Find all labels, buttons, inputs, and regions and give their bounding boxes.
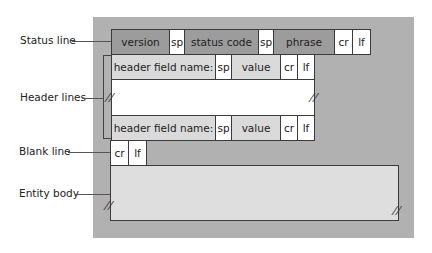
field-cr: cr xyxy=(280,115,298,141)
label-blank-line: Blank line xyxy=(19,145,71,157)
header-line-row-2: header field name: sp value cr lf xyxy=(111,115,315,141)
field-cr: cr xyxy=(110,140,129,166)
field-phrase: phrase xyxy=(273,29,335,55)
field-value: value xyxy=(231,54,281,80)
leader-entity-body xyxy=(75,194,110,195)
field-sp: sp xyxy=(215,115,232,141)
field-value: value xyxy=(231,115,281,141)
field-sp: sp xyxy=(169,29,185,55)
field-lf: lf xyxy=(297,115,315,141)
leader-header-lines xyxy=(82,98,103,99)
label-header-lines: Header lines xyxy=(20,91,86,103)
field-sp: sp xyxy=(258,29,274,55)
status-line-row: version sp status code sp phrase cr lf xyxy=(111,29,371,55)
field-cr: cr xyxy=(280,54,298,80)
header-lines-omitted-area xyxy=(111,80,315,116)
field-version: version xyxy=(111,29,170,55)
field-header-name: header field name: xyxy=(111,115,216,141)
leader-status-line xyxy=(72,41,111,42)
blank-line-row: cr lf xyxy=(110,140,147,166)
label-entity-body: Entity body xyxy=(19,187,79,199)
field-lf: lf xyxy=(352,29,371,55)
field-lf: lf xyxy=(128,140,147,166)
field-sp: sp xyxy=(215,54,232,80)
entity-body-box xyxy=(110,165,399,221)
field-lf: lf xyxy=(297,54,315,80)
field-header-name: header field name: xyxy=(111,54,216,80)
leader-blank-line xyxy=(68,152,110,153)
header-line-row-1: header field name: sp value cr lf xyxy=(111,54,315,80)
field-status-code: status code xyxy=(184,29,259,55)
label-status-line: Status line xyxy=(20,34,76,46)
field-cr: cr xyxy=(334,29,353,55)
